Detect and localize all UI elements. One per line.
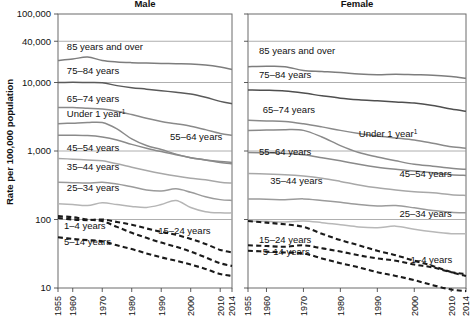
series-label-35-44-years: 35–44 years xyxy=(67,161,120,172)
x-tick-label-2014: 2014 xyxy=(227,296,237,316)
x-tick-label-1960: 1960 xyxy=(262,296,272,316)
series-label-65-74-years: 65–74 years xyxy=(263,104,316,115)
series-label-75-84-years: 75–84 years xyxy=(67,65,120,76)
series-label-65-74-years: 65–74 years xyxy=(67,93,120,104)
y-tick-label-10000: 10,000 xyxy=(22,77,51,88)
panel-female: Female1955196019701980199020002010201485… xyxy=(243,0,471,316)
dual-panel-line-chart: Rate per 100,000 population Male101001,0… xyxy=(0,0,472,327)
series-label-85-years-and-over: 85 years and over xyxy=(67,41,143,52)
y-tick-label-10: 10 xyxy=(40,282,51,293)
series-label-55-64-years: 55–64 years xyxy=(170,131,223,142)
x-tick-label-1990: 1990 xyxy=(157,296,167,316)
x-tick-label-2000: 2000 xyxy=(186,296,196,316)
x-tick-label-2010: 2010 xyxy=(447,296,457,316)
series-label-85-years-and-over: 85 years and over xyxy=(259,45,335,56)
series-label-35-44-years: 35–44 years xyxy=(270,175,323,186)
series-label-55-64-years: 55–64 years xyxy=(259,146,312,157)
series-label-75-84-years: 75–84 years xyxy=(259,69,312,80)
footnote-marker: 1 xyxy=(414,128,418,135)
series-line-25-34-years xyxy=(248,221,466,234)
y-tick-label-100: 100 xyxy=(35,214,51,225)
series-line-65-74-years xyxy=(248,120,466,148)
y-axis-title: Rate per 100,000 population xyxy=(4,79,15,205)
series-label-15-24-years: 15–24 years xyxy=(158,225,211,236)
x-tick-label-2014: 2014 xyxy=(461,296,471,316)
footnote-marker: 1 xyxy=(122,108,126,115)
series-label-25-34-years: 25–34 years xyxy=(399,208,452,219)
y-tick-label-100000: 100,000 xyxy=(17,8,51,19)
panel-title-female: Female xyxy=(341,0,374,9)
series-label-25-34-years: 25–34 years xyxy=(67,182,120,193)
x-tick-label-2000: 2000 xyxy=(410,296,420,316)
x-tick-label-1955: 1955 xyxy=(53,296,63,316)
series-label-1-4-years: 1–4 years xyxy=(411,254,453,265)
series-label-5-14-years: 5–14 years xyxy=(263,246,310,257)
x-tick-label-1990: 1990 xyxy=(373,296,383,316)
x-tick-label-1970: 1970 xyxy=(98,296,108,316)
y-tick-label-40000: 40,000 xyxy=(22,36,51,47)
series-label-5-14-years: 5–14 years xyxy=(64,236,111,247)
x-tick-label-1955: 1955 xyxy=(243,296,253,316)
series-label-1-4-years: 1–4 years xyxy=(64,220,106,231)
chart-canvas: Rate per 100,000 population Male101001,0… xyxy=(0,0,472,327)
series-label-45-54-years: 45–54 years xyxy=(399,168,452,179)
series-label-under-1-year: Under 1 year1 xyxy=(359,128,418,140)
x-tick-label-1970: 1970 xyxy=(299,296,309,316)
panel-title-male: Male xyxy=(134,0,155,9)
x-tick-label-2010: 2010 xyxy=(216,296,226,316)
series-line-25-34-years xyxy=(58,200,232,213)
series-label-15-24-years: 15–24 years xyxy=(259,234,312,245)
panels-group: Male101001,00010,00040,000100,0001955196… xyxy=(17,0,472,316)
panel-male: Male101001,00010,00040,000100,0001955196… xyxy=(17,0,238,316)
y-axis-title-group: Rate per 100,000 population xyxy=(4,79,15,205)
series-label-45-54-years: 45–54 years xyxy=(67,142,120,153)
x-tick-label-1960: 1960 xyxy=(68,296,78,316)
y-tick-label-1000: 1,000 xyxy=(27,145,51,156)
series-label-under-1-year: Under 1 year1 xyxy=(67,108,126,120)
x-tick-label-1980: 1980 xyxy=(336,296,346,316)
x-tick-label-1980: 1980 xyxy=(127,296,137,316)
